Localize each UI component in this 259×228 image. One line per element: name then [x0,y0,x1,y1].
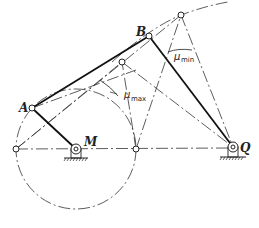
joint-A-right [133,146,139,152]
label-mu-max-sub: max [131,95,146,103]
crank-MA [32,108,76,149]
label-mu-max: μ [123,89,130,100]
label-M: M [83,135,98,149]
joint-A-left [13,146,19,152]
joint-B-top [178,12,184,18]
label-A: A [18,101,28,115]
linkage-diagram: A B M Q μ max μ min [0,0,259,228]
coupler-line-mid2 [122,62,136,149]
joint-B-mid [119,59,125,65]
frame-line [16,148,233,149]
label-mu-min: μ [173,51,180,62]
label-B: B [135,25,146,39]
label-Q: Q [240,141,251,155]
rocker-BQ [149,36,233,147]
joint-B [146,33,152,39]
rocker-arc [112,2,228,62]
label-mu-min-sub: min [181,56,194,64]
joint-A [29,105,35,111]
